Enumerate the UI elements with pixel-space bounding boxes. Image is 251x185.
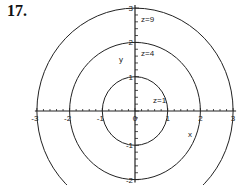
y-tick-label: 3 [129, 4, 134, 13]
x-axis-label: x [188, 130, 192, 139]
contour-label: z=4 [141, 49, 155, 58]
contour-label: z=9 [141, 15, 155, 24]
x-tick-label: -3 [31, 114, 39, 123]
y-tick-label: 2 [129, 38, 134, 47]
y-tick-label: -2 [126, 176, 134, 185]
contour-label: z=1 [153, 96, 167, 105]
x-tick-label: -2 [64, 114, 72, 123]
contour-plot: -3-2-10123-2-1123xyz=1z=4z=9 [0, 0, 251, 185]
x-tick-label: 3 [231, 114, 236, 123]
y-tick-label: -1 [126, 141, 134, 150]
y-axis-label: y [119, 55, 123, 64]
x-tick-label: 1 [165, 114, 170, 123]
x-tick-label: -1 [97, 114, 105, 123]
x-tick-label: 2 [198, 114, 203, 123]
x-tick-label: 0 [133, 114, 138, 123]
y-tick-label: 1 [129, 73, 134, 82]
